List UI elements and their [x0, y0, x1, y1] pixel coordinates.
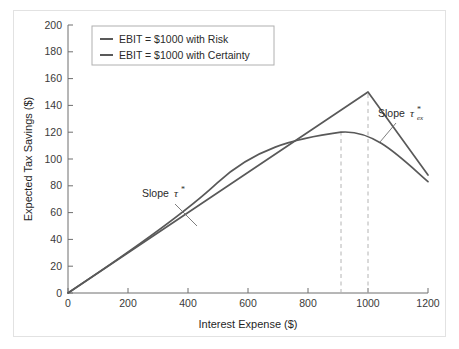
y-tick-label: 20	[50, 260, 62, 272]
annotation-leader-line	[380, 123, 396, 142]
y-tick-label: 0	[56, 287, 62, 299]
y-tick-label: 160	[44, 72, 62, 84]
x-tick-label: 200	[119, 297, 137, 309]
annotation-tau-ex-symbol: τ	[410, 107, 415, 119]
legend-item-risk[interactable]: EBIT = $1000 with Risk	[100, 33, 229, 45]
x-tick-label: 600	[239, 297, 257, 309]
annotation-tau-superscript: *	[181, 185, 185, 194]
y-axis-title: Expected Tax Savings ($)	[22, 97, 34, 222]
x-axis-ticks: 0 200 400 600 800 1000 1200	[65, 288, 440, 309]
y-tick-label: 140	[44, 99, 62, 111]
legend-label: EBIT = $1000 with Certainty	[119, 49, 251, 61]
x-axis-title: Interest Expense ($)	[198, 318, 297, 330]
y-tick-label: 120	[44, 126, 62, 138]
series-line-certainty	[68, 92, 428, 293]
annotation-slope-tau-label: Slope	[142, 187, 169, 199]
guide-lines-group	[341, 92, 368, 293]
y-tick-label: 60	[50, 206, 62, 218]
y-tick-label: 80	[50, 179, 62, 191]
annotation-tau-symbol: τ	[174, 187, 179, 199]
y-tick-label: 40	[50, 233, 62, 245]
tax-savings-chart: 0 20 40 60 80 100 120 140 160 180 200 0 …	[14, 11, 445, 336]
legend-label: EBIT = $1000 with Risk	[119, 33, 229, 45]
x-tick-label: 0	[65, 297, 71, 309]
y-tick-label: 100	[44, 153, 62, 165]
chart-legend[interactable]: EBIT = $1000 with Risk EBIT = $1000 with…	[92, 26, 274, 65]
y-tick-label: 200	[44, 19, 62, 31]
x-tick-label: 1200	[416, 297, 440, 309]
y-axis-ticks: 0 20 40 60 80 100 120 140 160 180 200	[44, 19, 73, 299]
x-tick-label: 1000	[356, 297, 380, 309]
annotation-slope-tau-ex-label: Slope	[378, 107, 405, 119]
x-tick-label: 400	[179, 297, 197, 309]
annotation-tau-ex-subscript: ex	[417, 114, 424, 122]
figure-frame: 0 20 40 60 80 100 120 140 160 180 200 0 …	[13, 10, 446, 337]
annotation-slope-tau: Slope τ *	[142, 185, 197, 226]
y-tick-label: 180	[44, 45, 62, 57]
series-line-risk	[68, 132, 428, 293]
legend-item-certainty[interactable]: EBIT = $1000 with Certainty	[100, 49, 251, 61]
annotation-tau-ex-superscript: *	[417, 105, 421, 114]
x-tick-label: 800	[299, 297, 317, 309]
